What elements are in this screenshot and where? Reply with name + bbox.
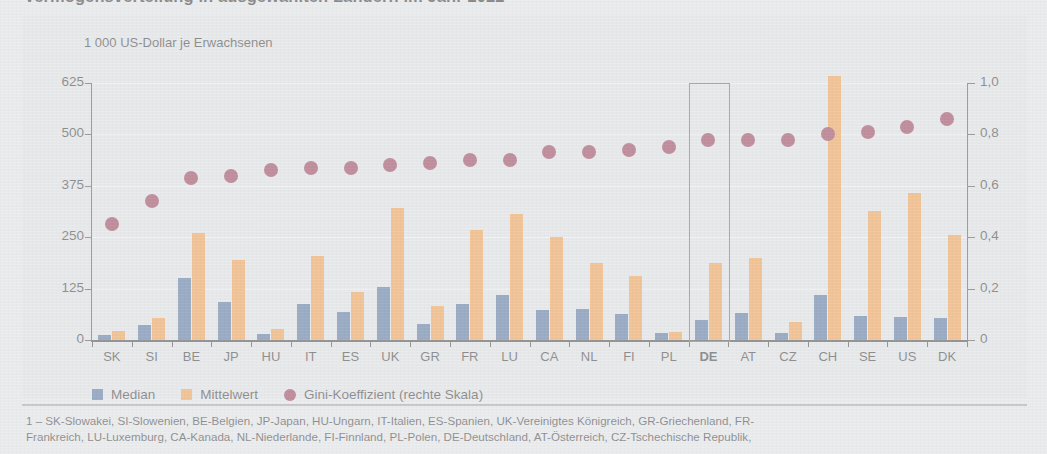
bar-mean <box>908 193 921 340</box>
gini-data-point <box>781 133 795 147</box>
bar-median <box>894 317 907 340</box>
x-axis-tick <box>808 340 809 347</box>
bar-median <box>98 335 111 340</box>
bar-median <box>536 310 549 340</box>
bar-mean <box>828 76 841 340</box>
bar-mean <box>590 263 603 340</box>
x-axis-tick <box>331 340 332 347</box>
y-axis-right-tick-label: 0,2 <box>980 280 1024 295</box>
x-axis-label-cz: CZ <box>768 349 808 364</box>
bar-median <box>854 316 867 340</box>
bar-median <box>456 304 469 340</box>
gini-data-point <box>582 145 596 159</box>
bar-mean <box>948 235 961 340</box>
median-swatch-icon <box>92 389 103 400</box>
bar-mean <box>112 331 125 340</box>
bar-mean <box>431 306 444 340</box>
y-axis-unit-label: 1 000 US-Dollar je Erwachsenen <box>84 35 273 50</box>
gini-data-point <box>224 169 238 183</box>
y-axis-left-tick-label: 500 <box>38 125 84 140</box>
gini-data-point <box>622 143 636 157</box>
bar-mean <box>789 322 802 340</box>
x-axis-label-pl: PL <box>649 349 689 364</box>
legend-item-median: Median <box>92 387 155 402</box>
bar-mean <box>192 233 205 340</box>
plot-area <box>92 83 967 340</box>
bar-mean <box>271 329 284 341</box>
gini-data-point <box>304 161 318 175</box>
gini-data-point <box>503 153 517 167</box>
x-axis-tick <box>172 340 173 347</box>
legend-label-mean: Mittelwert <box>200 387 258 402</box>
gini-data-point <box>184 171 198 185</box>
x-axis-label-ca: CA <box>530 349 570 364</box>
bar-mean <box>391 208 404 340</box>
x-axis-tick <box>370 340 371 347</box>
bar-median <box>814 295 827 340</box>
x-axis-label-nl: NL <box>569 349 609 364</box>
x-axis-tick <box>490 340 491 347</box>
y-axis-left-tick-label: 250 <box>38 228 84 243</box>
y-axis-right-labels: 00,20,40,60,81,0 <box>980 15 1028 398</box>
gini-data-point <box>940 112 954 126</box>
y-axis-left-tick <box>85 134 92 135</box>
y-axis-left-tick-label: 375 <box>38 177 84 192</box>
x-axis-label-fi: FI <box>609 349 649 364</box>
y-axis-right-tick <box>968 134 975 135</box>
legend-item-mean: Mittelwert <box>181 387 258 402</box>
x-axis-label-se: SE <box>848 349 888 364</box>
y-axis-right-tick-label: 0,6 <box>980 177 1024 192</box>
x-axis-tick <box>967 340 968 347</box>
bar-median <box>377 287 390 340</box>
footnote-divider <box>22 404 1027 406</box>
y-axis-right-tick <box>968 83 975 84</box>
chart-panel: 1 000 US-Dollar je Erwachsenen 012525037… <box>22 15 1027 398</box>
bar-mean <box>629 276 642 340</box>
x-axis-tick <box>211 340 212 347</box>
x-axis-tick <box>569 340 570 347</box>
x-axis-label-lu: LU <box>490 349 530 364</box>
gini-data-point <box>861 125 875 139</box>
x-axis-tick <box>410 340 411 347</box>
bar-median <box>257 334 270 340</box>
bar-mean <box>868 211 881 340</box>
y-axis-right-tick-label: 0 <box>980 331 1024 346</box>
bar-median <box>775 333 788 340</box>
y-axis-left-tick <box>85 83 92 84</box>
bar-mean <box>152 318 165 340</box>
x-axis-tick <box>251 340 252 347</box>
footnote-line-1: 1 – SK-Slowakei, SI-Slowenien, BE-Belgie… <box>26 413 1036 429</box>
bar-mean <box>351 292 364 340</box>
x-axis-tick <box>649 340 650 347</box>
y-axis-left-labels: 0125250375500625 <box>32 15 84 398</box>
x-axis-tick <box>927 340 928 347</box>
y-axis-left-tick-label: 0 <box>38 331 84 346</box>
bar-mean <box>550 237 563 340</box>
x-axis-label-es: ES <box>331 349 371 364</box>
bar-median <box>735 313 748 340</box>
bar-median <box>417 324 430 340</box>
x-axis-tick <box>450 340 451 347</box>
x-axis-label-sk: SK <box>92 349 132 364</box>
bar-median <box>615 314 628 340</box>
gini-data-point <box>463 153 477 167</box>
x-axis-tick <box>291 340 292 347</box>
x-axis-label-gr: GR <box>410 349 450 364</box>
x-axis-label-jp: JP <box>211 349 251 364</box>
x-axis-tick <box>848 340 849 347</box>
bar-median <box>337 312 350 340</box>
bar-mean <box>669 332 682 340</box>
bar-mean <box>510 214 523 340</box>
gini-data-point <box>900 120 914 134</box>
legend-label-median: Median <box>111 387 155 402</box>
y-axis-right-tick <box>968 237 975 238</box>
y-axis-left-tick-label: 125 <box>38 280 84 295</box>
bar-mean <box>232 260 245 340</box>
gini-data-point <box>264 163 278 177</box>
x-axis-label-uk: UK <box>370 349 410 364</box>
y-axis-right-tick <box>968 289 975 290</box>
y-axis-right-tick-label: 0,8 <box>980 125 1024 140</box>
x-axis-label-us: US <box>887 349 927 364</box>
x-axis-label-hu: HU <box>251 349 291 364</box>
y-axis-left-tick <box>85 340 92 341</box>
